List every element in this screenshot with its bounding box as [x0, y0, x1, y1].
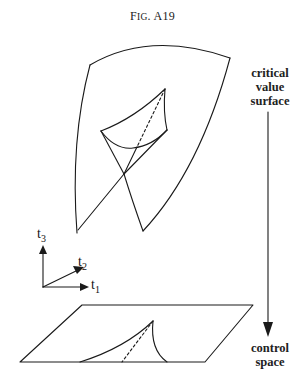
axis-label-t3: t3	[37, 226, 46, 244]
axis-label-t2: t2	[78, 254, 87, 272]
critical-value-surface-label: critical value surface	[240, 66, 300, 108]
fold-region	[101, 89, 167, 174]
label-line: control	[240, 341, 300, 355]
axis-t3-arrowhead	[39, 245, 47, 254]
control-space-plane	[20, 305, 253, 362]
label-line: space	[240, 355, 300, 369]
control-space-label: control space	[240, 341, 300, 369]
cusp-catastrophe-diagram	[0, 0, 305, 382]
axis-label-t1: t1	[91, 277, 100, 295]
label-line: value	[240, 80, 300, 94]
arrow-head-down	[263, 322, 273, 337]
axis-t1-arrowhead	[80, 283, 89, 291]
critical-value-surface	[75, 46, 230, 233]
label-line: surface	[240, 94, 300, 108]
label-line: critical	[240, 66, 300, 80]
